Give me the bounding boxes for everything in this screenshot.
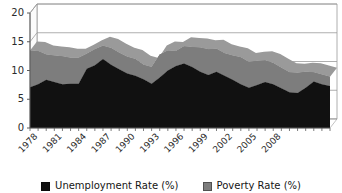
legend-item-poverty: Poverty Rate (%) (203, 181, 301, 191)
svg-text:2005: 2005 (235, 131, 258, 154)
svg-text:10: 10 (11, 65, 24, 76)
y-axis-tick-labels: 20151050 (11, 7, 24, 133)
svg-text:1987: 1987 (89, 131, 112, 154)
svg-text:1999: 1999 (187, 131, 210, 154)
x-axis-tick-labels: 1978198119841987199019931996199920022005… (16, 131, 283, 154)
svg-text:5: 5 (18, 93, 24, 104)
stacked-area-chart: 20151050 1978198119841987199019931996199… (0, 0, 342, 193)
svg-text:1981: 1981 (41, 131, 64, 154)
legend-item-unemployment: Unemployment Rate (%) (41, 181, 178, 191)
svg-text:0: 0 (18, 122, 24, 133)
svg-text:2008: 2008 (259, 131, 282, 154)
chart-legend: Unemployment Rate (%) Poverty Rate (%) (0, 181, 342, 191)
svg-text:1984: 1984 (65, 131, 88, 154)
legend-swatch-unemployment (41, 182, 50, 191)
svg-text:1996: 1996 (162, 131, 185, 154)
legend-label-unemployment: Unemployment Rate (%) (55, 181, 178, 191)
svg-text:2002: 2002 (211, 131, 234, 154)
chart-canvas: 20151050 1978198119841987199019931996199… (0, 0, 342, 193)
svg-text:1993: 1993 (138, 131, 161, 154)
svg-text:20: 20 (11, 7, 24, 18)
svg-text:1978: 1978 (16, 131, 39, 154)
legend-label-poverty: Poverty Rate (%) (217, 181, 301, 191)
legend-swatch-poverty (203, 182, 212, 191)
svg-text:15: 15 (11, 36, 24, 47)
svg-text:1990: 1990 (114, 131, 137, 154)
